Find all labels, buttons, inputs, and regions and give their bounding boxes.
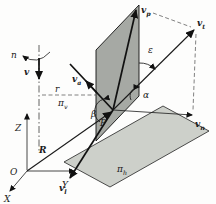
va-arrow [86,81,97,93]
construction-line-right [193,34,196,110]
label-x: X [3,194,11,204]
label-alpha: α [143,90,149,100]
label-vp: vp [141,5,151,18]
construction-line-top [153,13,191,27]
label-vn: vn [195,119,205,131]
horizontal-plane [64,106,209,187]
rotation-arrow [23,52,50,60]
label-pi-v: πv [57,98,68,110]
label-P: P [99,118,107,128]
label-z: Z [14,123,22,133]
label-r: r [55,84,60,94]
label-vt: vt [197,18,205,30]
label-epsilon: ε [148,45,153,55]
label-o: O [10,167,18,177]
geometry-figure: n v r Z O Y X R P πv πh vp vt vn vl va α… [0,0,216,204]
label-v-axis: v [24,67,30,77]
label-R: R [38,145,47,155]
figure-canvas: n v r Z O Y X R P πv πh vp vt vn vl va α… [0,0,216,204]
epsilon-arc [139,63,155,69]
label-n: n [11,50,17,60]
label-beta: β [90,109,96,119]
